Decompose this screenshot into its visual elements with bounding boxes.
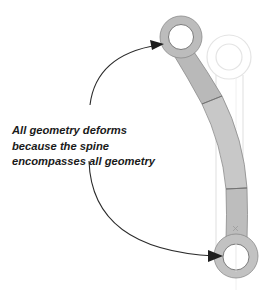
callout-line-3: encompasses all geometry: [12, 154, 172, 170]
ghost-eyelet-inner: [216, 44, 242, 70]
arrow-to-top-eyelet: [90, 40, 164, 105]
arrow-to-bottom-eyelet: [89, 161, 223, 262]
arm-segment-middle: [202, 96, 247, 189]
callout-line-2: because the spine: [12, 139, 172, 155]
arrow-curve-bottom: [89, 161, 215, 256]
arrow-curve-top: [90, 45, 158, 105]
callout-line-1: All geometry deforms: [12, 123, 172, 139]
top-eyelet: [160, 16, 202, 58]
callout-text: All geometry deforms because the spine e…: [12, 123, 172, 170]
arm-segment-lower: [226, 188, 248, 240]
bent-arm: [172, 46, 248, 240]
ghost-eyelet-outer: [207, 35, 251, 79]
top-eyelet-hole: [169, 25, 194, 50]
